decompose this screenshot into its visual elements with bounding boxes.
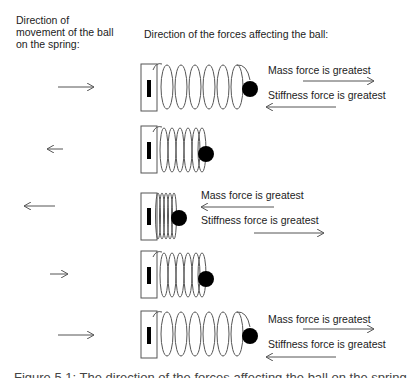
spring-row-2-medium [141,126,214,173]
figure-caption: Figure 5.1: The direction of the forces … [14,370,407,378]
spring-row-3-compressed [141,193,187,240]
mass-force-label: Mass force is greatest [268,64,371,76]
spring-row-5-extended [141,311,258,358]
stiffness-force-label: Stiffness force is greatest [268,338,386,350]
mass-force-label: Mass force is greatest [268,313,371,325]
stiffness-force-label: Stiffness force is greatest [268,89,386,101]
spring-row-4-medium [141,251,214,298]
spring-row-1-extended [141,64,258,111]
stiffness-force-label: Stiffness force is greatest [201,214,319,226]
mass-force-label: Mass force is greatest [201,189,304,201]
